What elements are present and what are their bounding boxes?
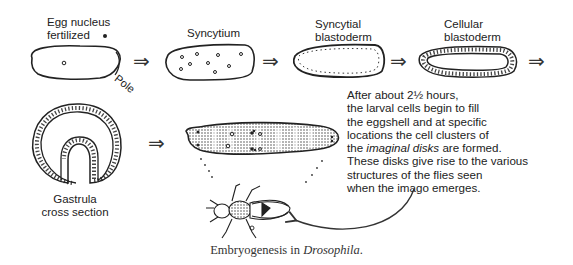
arrow-3-icon: ⇒ bbox=[390, 49, 407, 73]
arrow-4-icon: ⇒ bbox=[528, 49, 545, 73]
curved-arrow-icon bbox=[295, 189, 414, 229]
description-text: After about 2½ hours, the larval cells b… bbox=[347, 88, 572, 194]
syncytial-blastoderm-stage-icon bbox=[294, 45, 384, 78]
syncytium-stage-icon bbox=[166, 45, 254, 80]
imaginal-disks-term: imaginal disks bbox=[366, 141, 439, 154]
arrow-2-icon: ⇒ bbox=[262, 49, 279, 73]
cellular-blastoderm-stage-icon bbox=[419, 47, 516, 78]
larva-stage-icon bbox=[186, 123, 338, 183]
egg-stage-icon bbox=[32, 46, 120, 79]
figure-caption: Embryogenesis in Drosophila. bbox=[0, 243, 573, 258]
arrow-5-icon: ⇒ bbox=[148, 131, 165, 155]
imago-fly-icon bbox=[206, 184, 290, 238]
gastrula-stage-icon bbox=[33, 104, 121, 183]
arrow-1-icon: ⇒ bbox=[133, 49, 150, 73]
